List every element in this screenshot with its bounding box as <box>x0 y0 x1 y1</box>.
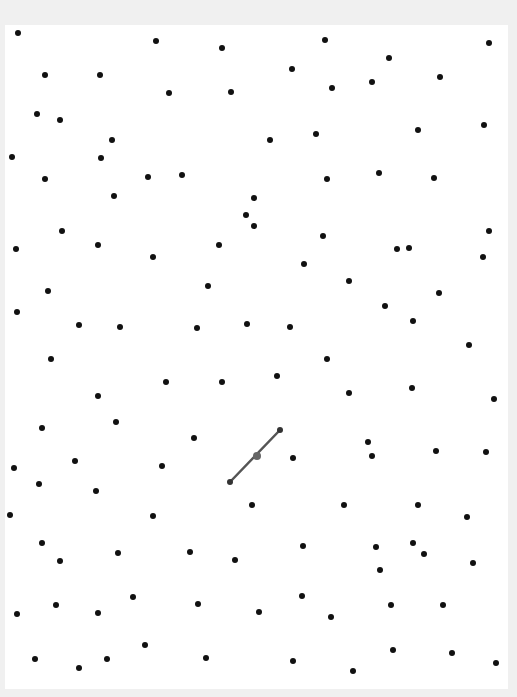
point[interactable] <box>39 425 45 431</box>
point[interactable] <box>9 154 15 160</box>
point[interactable] <box>464 514 470 520</box>
point[interactable] <box>251 195 257 201</box>
point[interactable] <box>410 540 416 546</box>
point[interactable] <box>205 283 211 289</box>
point[interactable] <box>219 379 225 385</box>
point[interactable] <box>433 448 439 454</box>
point[interactable] <box>299 593 305 599</box>
point[interactable] <box>300 543 306 549</box>
segment-start-handle[interactable] <box>227 479 233 485</box>
point[interactable] <box>111 193 117 199</box>
point[interactable] <box>388 602 394 608</box>
point[interactable] <box>95 610 101 616</box>
point[interactable] <box>130 594 136 600</box>
point[interactable] <box>34 111 40 117</box>
point[interactable] <box>251 223 257 229</box>
segment-end-handle[interactable] <box>277 427 283 433</box>
point[interactable] <box>191 435 197 441</box>
point[interactable] <box>113 419 119 425</box>
point[interactable] <box>390 647 396 653</box>
point[interactable] <box>481 122 487 128</box>
point[interactable] <box>421 551 427 557</box>
point[interactable] <box>57 558 63 564</box>
point[interactable] <box>480 254 486 260</box>
point[interactable] <box>14 611 20 617</box>
point[interactable] <box>410 318 416 324</box>
point[interactable] <box>243 212 249 218</box>
point[interactable] <box>166 90 172 96</box>
point[interactable] <box>406 245 412 251</box>
point[interactable] <box>45 288 51 294</box>
point[interactable] <box>232 557 238 563</box>
point[interactable] <box>346 278 352 284</box>
point[interactable] <box>95 242 101 248</box>
point[interactable] <box>415 502 421 508</box>
point[interactable] <box>437 74 443 80</box>
point[interactable] <box>142 642 148 648</box>
point[interactable] <box>470 560 476 566</box>
point[interactable] <box>346 390 352 396</box>
point[interactable] <box>42 72 48 78</box>
point[interactable] <box>216 242 222 248</box>
point[interactable] <box>486 228 492 234</box>
point[interactable] <box>203 655 209 661</box>
point[interactable] <box>15 30 21 36</box>
point[interactable] <box>320 233 326 239</box>
point[interactable] <box>36 481 42 487</box>
point[interactable] <box>109 137 115 143</box>
point[interactable] <box>187 549 193 555</box>
point[interactable] <box>72 458 78 464</box>
point[interactable] <box>324 176 330 182</box>
point[interactable] <box>163 379 169 385</box>
point[interactable] <box>440 602 446 608</box>
point[interactable] <box>150 513 156 519</box>
point[interactable] <box>287 324 293 330</box>
point[interactable] <box>13 246 19 252</box>
point[interactable] <box>228 89 234 95</box>
point[interactable] <box>159 463 165 469</box>
point[interactable] <box>145 174 151 180</box>
point[interactable] <box>117 324 123 330</box>
point[interactable] <box>409 385 415 391</box>
point[interactable] <box>104 656 110 662</box>
point[interactable] <box>324 356 330 362</box>
point[interactable] <box>350 668 356 674</box>
point[interactable] <box>98 155 104 161</box>
segment-midpoint-handle[interactable] <box>253 452 261 460</box>
point[interactable] <box>322 37 328 43</box>
point[interactable] <box>11 465 17 471</box>
point[interactable] <box>290 455 296 461</box>
point[interactable] <box>48 356 54 362</box>
point[interactable] <box>274 373 280 379</box>
point[interactable] <box>219 45 225 51</box>
point[interactable] <box>93 488 99 494</box>
point[interactable] <box>301 261 307 267</box>
point[interactable] <box>377 567 383 573</box>
point[interactable] <box>436 290 442 296</box>
point[interactable] <box>267 137 273 143</box>
point[interactable] <box>369 453 375 459</box>
point[interactable] <box>7 512 13 518</box>
point[interactable] <box>289 66 295 72</box>
point[interactable] <box>39 540 45 546</box>
point[interactable] <box>466 342 472 348</box>
point[interactable] <box>493 660 499 666</box>
point[interactable] <box>431 175 437 181</box>
point[interactable] <box>179 172 185 178</box>
point[interactable] <box>32 656 38 662</box>
point[interactable] <box>483 449 489 455</box>
point[interactable] <box>150 254 156 260</box>
point[interactable] <box>415 127 421 133</box>
point[interactable] <box>365 439 371 445</box>
point[interactable] <box>491 396 497 402</box>
point[interactable] <box>449 650 455 656</box>
point[interactable] <box>195 601 201 607</box>
point[interactable] <box>382 303 388 309</box>
point[interactable] <box>328 614 334 620</box>
point[interactable] <box>14 309 20 315</box>
point[interactable] <box>369 79 375 85</box>
point[interactable] <box>97 72 103 78</box>
point[interactable] <box>76 665 82 671</box>
point[interactable] <box>386 55 392 61</box>
point[interactable] <box>153 38 159 44</box>
